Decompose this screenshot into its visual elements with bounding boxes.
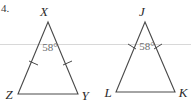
angle-label-x: 58° bbox=[42, 41, 57, 53]
vertex-label-z: Z bbox=[5, 87, 13, 102]
figure-canvas: X Z Y 58° J L K 58° 4. bbox=[0, 0, 191, 109]
vertex-label-k: K bbox=[178, 85, 189, 100]
angle-label-j: 58° bbox=[139, 40, 154, 52]
triangle-jlk-outline bbox=[116, 22, 175, 92]
triangle-xzy-outline bbox=[18, 22, 78, 94]
vertex-label-y: Y bbox=[81, 88, 90, 103]
vertex-label-l: L bbox=[103, 85, 111, 100]
geometry-figure: X Z Y 58° J L K 58° 4. bbox=[0, 0, 191, 109]
triangle-jlk: J L K 58° bbox=[103, 4, 188, 100]
vertex-label-x: X bbox=[39, 4, 49, 19]
vertex-label-j: J bbox=[139, 4, 146, 19]
triangle-xzy: X Z Y 58° bbox=[5, 4, 90, 103]
problem-number-label: 4. bbox=[1, 2, 10, 14]
